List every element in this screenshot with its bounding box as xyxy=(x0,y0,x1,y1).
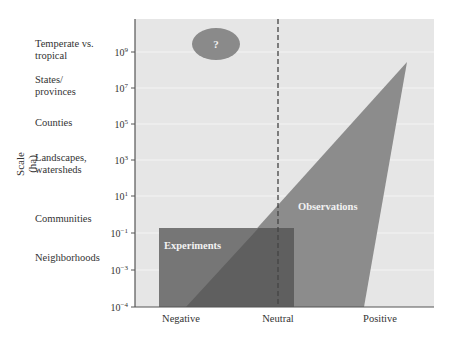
y-ticks: 10910710510310110−110−310−4 xyxy=(111,46,135,313)
y-tick-label: 103 xyxy=(115,154,129,166)
y-tick-label: 105 xyxy=(115,118,129,130)
y-tick-label: 10−4 xyxy=(111,301,129,313)
x-tick-labels: NegativeNeutralPositive xyxy=(162,313,397,324)
scale-category-label: States/ provinces xyxy=(35,74,76,98)
y-tick-label: 10−3 xyxy=(111,264,129,276)
y-tick-label: 101 xyxy=(115,190,129,202)
scale-category-label: Communities xyxy=(35,213,92,225)
observations-label: Observations xyxy=(298,201,358,212)
y-tick-label: 107 xyxy=(115,82,129,94)
y-tick-label: 109 xyxy=(115,46,129,58)
scale-category-label: Landscapes, watersheds xyxy=(35,152,87,176)
x-tick-label: Negative xyxy=(162,313,200,324)
x-tick-label: Positive xyxy=(363,313,397,324)
experiments-label: Experiments xyxy=(164,240,221,251)
scale-category-label: Temperate vs. tropical xyxy=(35,38,94,62)
scale-category-label: Counties xyxy=(35,117,72,129)
y-tick-label: 10−1 xyxy=(111,227,129,239)
x-tick-label: Neutral xyxy=(262,313,294,324)
y-axis-label: Scale (ha) xyxy=(14,144,38,184)
scale-category-label: Neighborhoods xyxy=(35,252,100,264)
unknown-label: ? xyxy=(213,38,219,50)
